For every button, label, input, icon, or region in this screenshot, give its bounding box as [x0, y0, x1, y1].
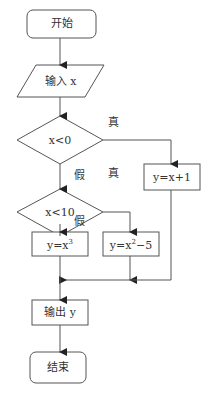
- edge-cond1-true: [103, 140, 171, 164]
- edge-label-cond2-true: 真: [108, 168, 119, 179]
- edge-label-cond2-false: 假: [74, 216, 85, 227]
- proc-sq-label: y=x2−5: [103, 239, 159, 251]
- start-label: 开始: [27, 18, 96, 29]
- output-label: 输出 y: [32, 307, 88, 318]
- edge-label-cond1-false: 假: [74, 170, 85, 181]
- input-label: 输入 x: [17, 76, 104, 87]
- edge-cond2-true: [103, 212, 130, 232]
- proc-cube-label: y=x3: [32, 239, 88, 251]
- cond2-label: x<10: [17, 207, 103, 218]
- proc-neg-label: y=x+1: [144, 172, 200, 183]
- edge-label-cond1-true: 真: [108, 117, 119, 128]
- flowchart-canvas: [0, 0, 210, 394]
- cond1-label: x<0: [17, 135, 103, 146]
- end-label: 结束: [30, 362, 86, 373]
